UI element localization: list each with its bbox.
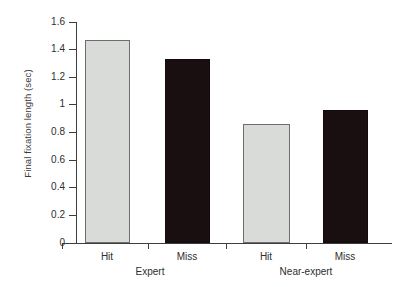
x-label-near-expert-hit: Hit: [260, 251, 272, 262]
x-tick-mark: [306, 243, 307, 249]
y-tick-mark: [69, 160, 76, 161]
x-label-expert-hit: Hit: [101, 251, 113, 262]
bar-chart: Final fixation length (sec) 0 0.2 0.4 0.…: [0, 0, 401, 287]
y-tick-mark: [69, 77, 76, 78]
y-tick-mark: [69, 104, 76, 105]
y-tick-label: 0.6: [51, 154, 65, 166]
y-tick-label: 0.2: [51, 209, 65, 221]
bar-near-expert-hit: [243, 124, 290, 243]
plot-area: 0 0.2 0.4 0.6 0.8 1 1.2 1.4: [76, 22, 392, 243]
y-tick-mark: [69, 22, 76, 23]
y-tick-label: 1.4: [51, 43, 65, 55]
x-tick-mark: [226, 243, 227, 249]
group-label-near-expert: Near-expert: [280, 266, 333, 277]
y-tick-label: 0.4: [51, 181, 65, 193]
y-tick-mark: [69, 49, 76, 50]
y-axis-title: Final fixation length (sec): [22, 39, 33, 209]
x-tick-mark: [62, 243, 63, 249]
group-label-expert: Expert: [136, 266, 165, 277]
bar-near-expert-miss: [323, 110, 368, 243]
y-tick-label: 1.2: [51, 71, 65, 83]
bar-expert-miss: [165, 59, 210, 243]
y-tick-mark: [69, 243, 76, 244]
bar-expert-hit: [85, 40, 130, 243]
x-tick-mark: [148, 243, 149, 249]
y-tick-label: 1: [59, 98, 65, 110]
x-axis-line: [62, 243, 392, 244]
y-tick-mark: [69, 132, 76, 133]
x-label-expert-miss: Miss: [177, 251, 198, 262]
y-tick-label: 0.8: [51, 126, 65, 138]
y-tick-mark: [69, 215, 76, 216]
y-tick-mark: [69, 187, 76, 188]
y-tick-label: 1.6: [51, 16, 65, 28]
x-label-near-expert-miss: Miss: [335, 251, 356, 262]
